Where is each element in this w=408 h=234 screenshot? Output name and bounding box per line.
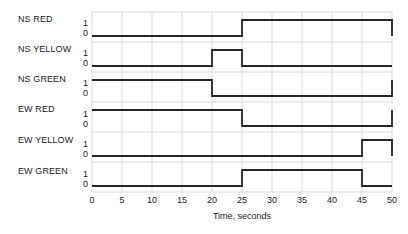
xtick-15: 15 [172,195,192,205]
xtick-0: 0 [82,195,102,205]
xtick-50: 50 [382,195,402,205]
xtick-5: 5 [112,195,132,205]
xtick-45: 45 [352,195,372,205]
xtick-10: 10 [142,195,162,205]
xtick-20: 20 [202,195,222,205]
timing-diagram-figure: NS RED NS YELLOW NS GREEN EW RED EW YELL… [0,0,408,234]
xaxis-title: Time, seconds [162,211,322,222]
waveform-ns-red [92,20,392,36]
xtick-40: 40 [322,195,342,205]
xtick-25: 25 [232,195,252,205]
xtick-35: 35 [292,195,312,205]
waveform-ew-green [92,170,392,186]
waveform-ew-red [92,110,392,126]
xtick-30: 30 [262,195,282,205]
waveform-ns-yellow [92,50,392,66]
